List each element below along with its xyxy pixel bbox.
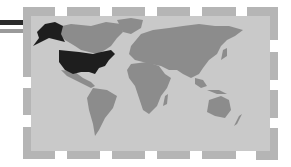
frame-tile: [112, 7, 145, 16]
stripe-light: [0, 29, 23, 33]
stripe-dark: [0, 20, 23, 25]
frame-tile: [23, 7, 31, 77]
frame-tile: [270, 52, 278, 80]
frame-tile: [67, 7, 100, 16]
frame-tile: [112, 150, 145, 159]
frame-tile: [270, 90, 278, 118]
frame-tile: [23, 150, 55, 159]
frame-tile: [202, 150, 236, 159]
world-map: [31, 16, 270, 151]
frame-tile: [157, 7, 190, 16]
frame-tile: [67, 150, 100, 159]
frame-tile: [202, 7, 236, 16]
frame-tile: [23, 88, 31, 115]
frame-tile: [157, 150, 190, 159]
world-map-panel: [31, 16, 270, 151]
